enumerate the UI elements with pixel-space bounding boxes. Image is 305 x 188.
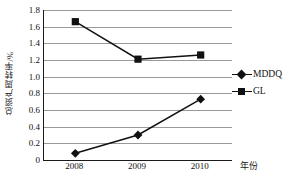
data-point-mddq	[71, 149, 80, 158]
x-axis-tick: 2010	[191, 162, 209, 171]
y-axis-label-text: 总资产周转率/%	[6, 52, 15, 115]
legend-item-mddq[interactable]: MDDQ	[232, 66, 304, 83]
y-axis-tick: 0.2	[16, 139, 40, 148]
chart-legend: MDDQ GL	[232, 66, 304, 100]
y-axis-tick: 0.8	[16, 89, 40, 98]
y-axis-tick: 0.6	[16, 106, 40, 115]
x-axis-tick: 2008	[65, 162, 83, 171]
y-axis-tick: 0	[16, 156, 40, 165]
y-axis-tick: 1.0	[16, 72, 40, 81]
x-axis-tick-labels: 200820092010	[43, 162, 231, 176]
chart-figure: 总资产周转率/% 1.81.61.41.21.00.80.60.40.20 20…	[0, 0, 305, 188]
data-point-gl	[197, 51, 204, 58]
series-line-gl	[75, 22, 200, 60]
data-point-mddq	[134, 131, 143, 140]
series-line-mddq	[75, 99, 200, 153]
y-axis-tick: 1.8	[16, 6, 40, 15]
data-series-layer	[44, 10, 232, 160]
square-marker-icon	[232, 86, 252, 98]
y-axis-tick-labels: 1.81.61.41.21.00.80.60.40.20	[16, 0, 40, 188]
y-axis-tick: 1.2	[16, 56, 40, 65]
x-axis-label: 年份	[240, 162, 258, 171]
y-axis-tick: 1.6	[16, 22, 40, 31]
diamond-marker-icon	[232, 69, 252, 81]
y-axis-tick: 1.4	[16, 39, 40, 48]
x-axis-tick: 2009	[128, 162, 146, 171]
y-axis-label: 总资产周转率/%	[2, 14, 18, 154]
data-point-mddq	[196, 95, 205, 104]
legend-item-gl[interactable]: GL	[232, 83, 304, 100]
data-point-gl	[72, 18, 79, 25]
y-axis-tick: 0.4	[16, 122, 40, 131]
legend-label-mddq: MDDQ	[252, 70, 282, 80]
data-point-gl	[134, 56, 141, 63]
legend-label-gl: GL	[252, 87, 266, 97]
plot-area	[43, 10, 232, 161]
